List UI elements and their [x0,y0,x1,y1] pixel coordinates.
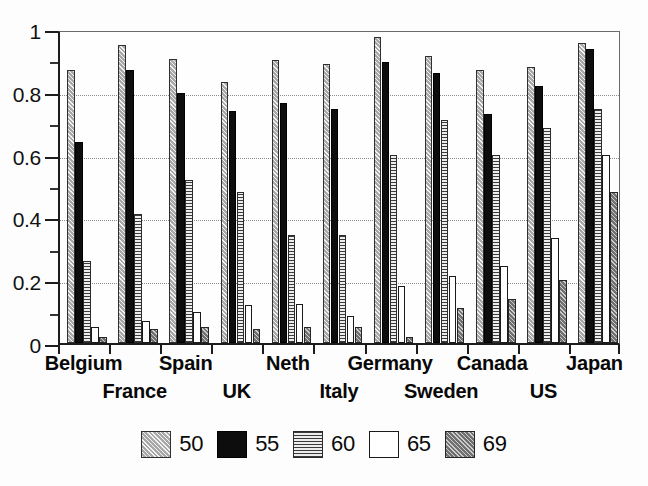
bar-spain-55 [177,93,185,343]
empty-white-swatch [369,431,399,458]
bar-sweden-55 [433,73,441,343]
x-axis-label-germany: Germany [347,352,432,375]
diagonal-hatch-light-swatch [141,431,171,458]
legend-item-50[interactable]: 50 [141,431,203,458]
y-axis-tick-label: 0.4 [13,209,41,230]
bar-germany-65 [398,286,406,343]
bar-group-canada [469,32,520,343]
bar-neth-55 [280,103,288,343]
bar-group-japan [571,32,622,343]
bar-italy-65 [347,316,355,343]
y-axis-tick-label: 1 [30,21,41,42]
y-axis-tick-label: 0.2 [13,272,41,293]
bar-japan-55 [586,49,594,343]
legend-item-55[interactable]: 55 [217,431,279,458]
y-axis-tick-label: 0.8 [13,83,41,104]
x-axis-label-neth: Neth [266,352,310,375]
bar-chart: 00.20.40.60.81 BelgiumFranceSpainUKNethI… [0,0,648,486]
bar-us-60 [543,128,551,343]
solid-black-swatch [217,431,247,458]
bar-germany-50 [374,37,382,343]
bar-group-germany [367,32,418,343]
y-axis-tick [45,31,58,33]
bar-group-uk [213,32,264,343]
x-axis-label-japan: Japan [566,352,623,375]
x-axis-label-canada: Canada [457,352,528,375]
y-axis-minor-tick [50,314,58,316]
bar-spain-65 [193,312,201,343]
bar-uk-69 [253,329,261,343]
bar-germany-55 [382,62,390,343]
x-axis-label-france: France [102,380,166,403]
bar-neth-69 [304,327,312,343]
y-axis-tick [45,345,58,347]
plot-area [58,31,620,345]
bar-france-60 [134,214,142,343]
bar-belgium-69 [99,337,107,343]
bar-italy-50 [323,64,331,343]
y-axis-tick-label: 0.6 [13,146,41,167]
bar-belgium-55 [75,142,83,343]
bar-italy-69 [355,327,363,343]
bar-group-france [111,32,162,343]
legend-label-55: 55 [255,433,279,455]
bar-uk-50 [221,82,229,343]
bar-spain-69 [201,327,209,343]
x-axis-label-sweden: Sweden [404,380,478,403]
legend-item-65[interactable]: 65 [369,431,431,458]
bar-sweden-69 [457,308,465,343]
x-axis-label-belgium: Belgium [45,352,123,375]
legend-item-69[interactable]: 69 [445,431,507,458]
bar-canada-60 [492,155,500,343]
x-axis-label-italy: Italy [319,380,358,403]
bar-canada-69 [508,299,516,343]
bar-germany-69 [406,337,414,343]
bar-canada-65 [500,266,508,343]
legend-label-65: 65 [407,433,431,455]
x-axis-label-us: US [530,380,557,403]
bar-germany-60 [390,155,398,343]
bar-sweden-60 [441,120,449,343]
y-axis: 00.20.40.60.81 [0,0,58,380]
bar-us-65 [551,238,559,343]
bar-sweden-65 [449,276,457,344]
x-axis-label-uk: UK [223,380,252,403]
bar-uk-60 [237,192,245,343]
y-axis-tick [45,219,58,221]
y-axis-tick [45,282,58,284]
bar-sweden-50 [425,56,433,343]
bar-group-belgium [60,32,111,343]
bar-france-69 [150,329,158,343]
bar-belgium-50 [67,70,75,343]
y-axis-minor-tick [50,188,58,190]
legend-label-50: 50 [179,433,203,455]
legend-item-60[interactable]: 60 [293,431,355,458]
bar-belgium-60 [83,261,91,343]
y-axis-tick [45,94,58,96]
y-axis-minor-tick [50,125,58,127]
legend-label-60: 60 [331,433,355,455]
bar-japan-50 [578,43,586,343]
bar-belgium-65 [91,327,99,343]
bar-us-50 [527,67,535,343]
bar-japan-65 [602,155,610,343]
x-axis-labels: BelgiumFranceSpainUKNethItalyGermanySwed… [0,352,648,412]
chart-legend: 5055606569 [0,424,648,464]
bar-neth-60 [288,235,296,343]
bar-france-65 [142,321,150,343]
y-axis-minor-tick [50,62,58,64]
bar-canada-55 [484,114,492,343]
legend-label-69: 69 [483,433,507,455]
bar-neth-50 [272,60,280,343]
bar-italy-55 [331,109,339,343]
bar-japan-60 [594,109,602,343]
bar-italy-60 [339,235,347,343]
y-axis-tick [45,157,58,159]
x-axis-label-spain: Spain [159,352,212,375]
bar-japan-69 [610,192,618,343]
y-axis-minor-tick [50,251,58,253]
diagonal-hatch-dark-swatch [445,431,475,458]
bar-spain-60 [185,180,193,343]
bar-group-sweden [418,32,469,343]
bar-us-55 [535,86,543,343]
